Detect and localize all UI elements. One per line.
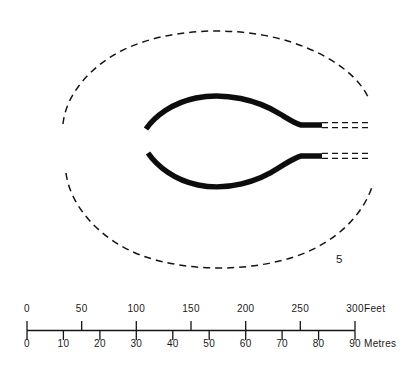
scale-metres-tick-label: 80 <box>313 338 325 349</box>
scale-metres-tick-label: 50 <box>203 338 215 349</box>
lower-bank-arc <box>148 153 322 187</box>
scale-metres-tick-label: 0 <box>24 338 30 349</box>
scale-metres-tick-label: 20 <box>94 338 106 349</box>
scale-bar-metres-ticks <box>27 331 355 341</box>
scale-feet-tick-label: 100 <box>128 303 146 314</box>
dashed-bank-extensions <box>322 123 371 159</box>
scale-feet-tick-label: 150 <box>182 303 200 314</box>
scale-feet-tick-label: 0 <box>24 303 30 314</box>
scale-feet-tick-label: 250 <box>292 303 310 314</box>
figure-number-label: 5 <box>336 253 343 265</box>
dashed-outer-enclosure <box>63 31 372 268</box>
scale-bar <box>27 321 355 340</box>
scale-metres-tick-label: 60 <box>240 338 252 349</box>
scale-metres-tick-label: 40 <box>167 338 179 349</box>
scale-bar-feet-ticks <box>27 321 355 331</box>
scale-metres-tick-label: 90 <box>349 338 361 349</box>
scale-feet-tick-label: 200 <box>237 303 255 314</box>
scale-metres-tick-label: 30 <box>130 338 142 349</box>
outer-boundary-upper-arc <box>63 31 368 124</box>
scale-unit-label-metres: Metres <box>364 338 396 349</box>
inner-bank-arcs <box>146 96 322 187</box>
scale-unit-label-feet: Feet <box>364 303 385 314</box>
scale-metres-tick-label: 10 <box>58 338 70 349</box>
scale-feet-tick-label: 50 <box>76 303 88 314</box>
scale-feet-tick-label: 300 <box>346 303 364 314</box>
upper-bank-arc <box>146 96 322 129</box>
scale-metres-tick-label: 70 <box>276 338 288 349</box>
figure-root: 5 0 50 100 150 200 250 300 Feet 0 10 20 … <box>0 0 419 369</box>
